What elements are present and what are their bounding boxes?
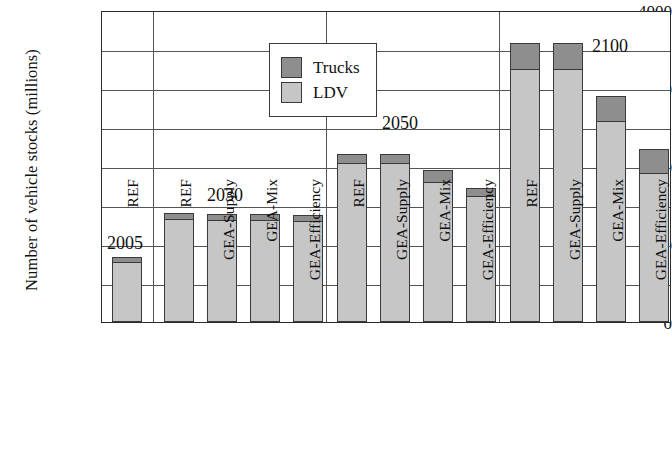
- gridline-3500: [102, 51, 670, 52]
- x-tick-2100-gea-mix: GEA-Mix: [609, 179, 627, 329]
- gridline-3000: [102, 90, 670, 91]
- x-tick-2050-gea-efficiency: GEA-Efficiency: [479, 179, 497, 329]
- x-tick-2030-gea-efficiency: GEA-Efficiency: [306, 179, 324, 329]
- x-tick-2050-gea-supply: GEA-Supply: [393, 179, 411, 329]
- x-tick-2100-gea-efficiency: GEA-Efficiency: [652, 179, 670, 329]
- bar-segment-trucks: [639, 149, 669, 174]
- y-axis-title: Number of vehicle stocks (millions): [22, 20, 42, 320]
- group-separator-2005-2030: [153, 12, 154, 322]
- legend-label-trucks: Trucks: [313, 59, 360, 76]
- group-separator-2050-2100: [499, 12, 500, 322]
- legend-item-trucks: Trucks: [281, 57, 360, 78]
- chart-figure: Number of vehicle stocks (millions) 4000…: [0, 0, 672, 472]
- x-tick-2050-gea-mix: GEA-Mix: [436, 179, 454, 329]
- x-tick-2100-gea-supply: GEA-Supply: [566, 179, 584, 329]
- legend-swatch-ldv-icon: [281, 82, 302, 103]
- legend-swatch-trucks-icon: [281, 57, 302, 78]
- legend: Trucks LDV: [269, 43, 377, 117]
- x-tick-2030-gea-mix: GEA-Mix: [263, 179, 281, 329]
- legend-label-ldv: LDV: [313, 84, 348, 101]
- x-tick-2030-ref: REF: [177, 179, 195, 329]
- x-tick-2050-ref: REF: [350, 179, 368, 329]
- bar-segment-trucks: [510, 43, 540, 70]
- bar-segment-trucks: [596, 96, 626, 122]
- x-tick-2100-ref: REF: [523, 179, 541, 329]
- period-label-2050: 2050: [382, 113, 418, 134]
- bar-segment-trucks: [553, 43, 583, 70]
- period-label-2100: 2100: [592, 36, 628, 57]
- x-tick-2005-ref: REF: [124, 179, 142, 329]
- x-tick-2030-gea-supply: GEA-Supply: [220, 179, 238, 329]
- legend-item-ldv: LDV: [281, 82, 360, 103]
